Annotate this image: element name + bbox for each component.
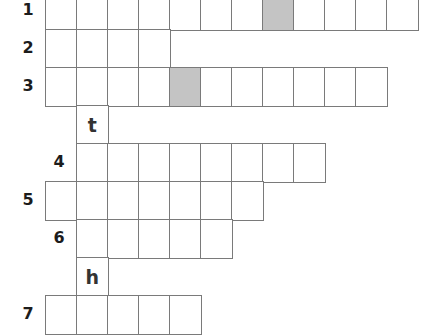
- grid-cell[interactable]: [138, 143, 171, 183]
- grid-cell[interactable]: [231, 143, 264, 183]
- grid-cell[interactable]: [200, 67, 233, 107]
- grid-cell[interactable]: t: [76, 105, 109, 145]
- grid-cell[interactable]: [45, 29, 78, 69]
- clue-number-7: 7: [18, 304, 38, 323]
- grid-cell[interactable]: [355, 0, 388, 31]
- grid-cell[interactable]: [138, 29, 171, 69]
- shaded-grid-cell[interactable]: [169, 67, 202, 107]
- grid-cell[interactable]: [45, 67, 78, 107]
- grid-cell[interactable]: [231, 67, 264, 107]
- grid-cell[interactable]: [262, 67, 295, 107]
- grid-cell[interactable]: [76, 143, 109, 183]
- grid-cell[interactable]: [169, 181, 202, 221]
- clue-number-3: 3: [18, 76, 38, 95]
- grid-cell[interactable]: [231, 0, 264, 31]
- grid-cell[interactable]: [324, 67, 357, 107]
- grid-cell[interactable]: [107, 219, 140, 259]
- grid-cell[interactable]: [386, 0, 419, 31]
- grid-cell[interactable]: [138, 181, 171, 221]
- grid-cell[interactable]: [45, 0, 78, 31]
- grid-cell[interactable]: [169, 0, 202, 31]
- grid-cell[interactable]: [293, 67, 326, 107]
- grid-cell[interactable]: [169, 295, 202, 335]
- grid-cell[interactable]: [76, 67, 109, 107]
- grid-cell[interactable]: [138, 67, 171, 107]
- grid-cell[interactable]: [200, 0, 233, 31]
- grid-cell[interactable]: [76, 219, 109, 259]
- grid-cell[interactable]: [324, 0, 357, 31]
- grid-cell[interactable]: [107, 181, 140, 221]
- grid-cell[interactable]: [107, 295, 140, 335]
- grid-cell[interactable]: [355, 67, 388, 107]
- grid-cell[interactable]: [76, 295, 109, 335]
- clue-number-6: 6: [49, 228, 69, 247]
- grid-cell[interactable]: [200, 143, 233, 183]
- grid-cell[interactable]: [45, 181, 78, 221]
- clue-number-2: 2: [18, 38, 38, 57]
- grid-cell[interactable]: [76, 181, 109, 221]
- grid-cell[interactable]: [76, 0, 109, 31]
- clue-number-5: 5: [18, 190, 38, 209]
- grid-cell[interactable]: [107, 29, 140, 69]
- clue-number-1: 1: [18, 0, 38, 19]
- grid-cell[interactable]: [76, 29, 109, 69]
- grid-cell[interactable]: [138, 219, 171, 259]
- given-letter: h: [77, 265, 108, 287]
- grid-cell[interactable]: [169, 143, 202, 183]
- grid-cell[interactable]: [200, 181, 233, 221]
- grid-cell[interactable]: [293, 143, 326, 183]
- grid-cell[interactable]: [231, 181, 264, 221]
- clue-number-4: 4: [49, 152, 69, 171]
- grid-cell[interactable]: [107, 143, 140, 183]
- grid-cell[interactable]: [107, 0, 140, 31]
- grid-cell[interactable]: [107, 67, 140, 107]
- grid-cell[interactable]: h: [76, 257, 109, 297]
- grid-cell[interactable]: [293, 0, 326, 31]
- shaded-grid-cell[interactable]: [262, 0, 295, 31]
- grid-cell[interactable]: [169, 219, 202, 259]
- given-letter: t: [77, 113, 108, 135]
- grid-cell[interactable]: [45, 295, 78, 335]
- grid-cell[interactable]: [138, 295, 171, 335]
- grid-cell[interactable]: [262, 143, 295, 183]
- grid-cell[interactable]: [200, 219, 233, 259]
- grid-cell[interactable]: [138, 0, 171, 31]
